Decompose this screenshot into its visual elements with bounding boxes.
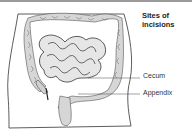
cecum-label: Cecum — [143, 72, 165, 80]
sites-of-incisions-title: Sites of incisions — [142, 11, 175, 29]
appendix-label: Appendix — [143, 89, 172, 97]
title-line-2: incisions — [142, 20, 175, 29]
title-line-1: Sites of — [142, 11, 175, 20]
small-intestine — [39, 35, 105, 82]
